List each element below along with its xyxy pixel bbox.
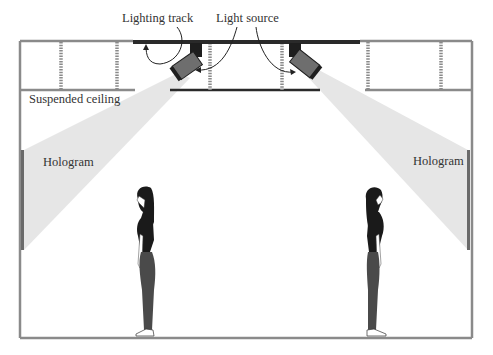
room-outline [20,41,472,338]
ceiling-hangers [61,42,441,90]
label-hologram-right: Hologram [413,154,464,169]
label-hologram-left: Hologram [43,155,94,170]
callout-arrows [146,27,294,72]
label-light-source: Light source [216,11,279,26]
person-right [366,187,386,336]
arrow-heads [143,44,296,75]
hologram-room-diagram [0,0,493,355]
label-suspended-ceiling: Suspended ceiling [29,92,120,107]
hologram-screen-right [467,150,470,250]
lighting-track [133,40,360,44]
label-lighting-track: Lighting track [122,11,193,26]
person-left [136,186,155,336]
hologram-screen-left [21,150,24,250]
